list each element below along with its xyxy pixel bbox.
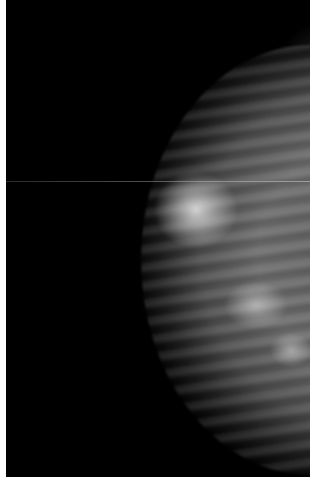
image-frame <box>0 0 321 485</box>
horizontal-scan-artifact <box>6 181 310 182</box>
mammogram-film <box>6 0 310 477</box>
breast-tissue-region <box>141 45 310 475</box>
